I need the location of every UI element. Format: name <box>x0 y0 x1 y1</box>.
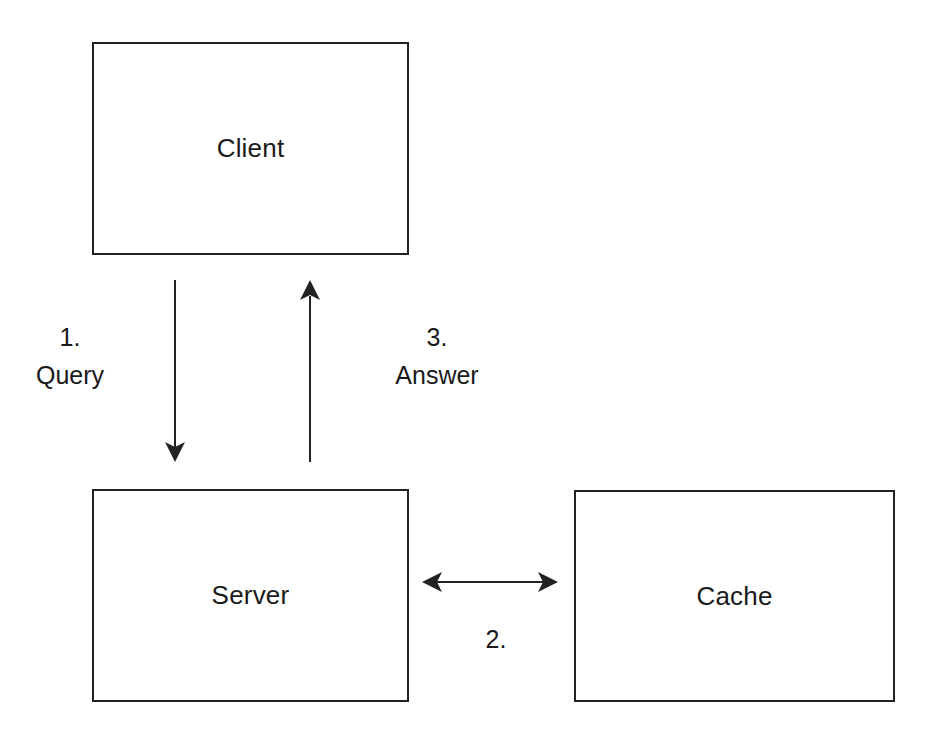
answer-arrow <box>300 280 320 462</box>
query-step: 1. <box>22 318 118 356</box>
query-edge-label: 1. Query <box>22 318 118 394</box>
query-arrow <box>165 280 185 462</box>
answer-edge-label: 3. Answer <box>382 318 492 394</box>
cache-lookup-step: 2. <box>468 620 524 658</box>
answer-text: Answer <box>382 356 492 394</box>
query-text: Query <box>22 356 118 394</box>
cache-lookup-edge-label: 2. <box>468 620 524 658</box>
answer-step: 3. <box>382 318 492 356</box>
cache-lookup-arrow <box>422 572 558 592</box>
